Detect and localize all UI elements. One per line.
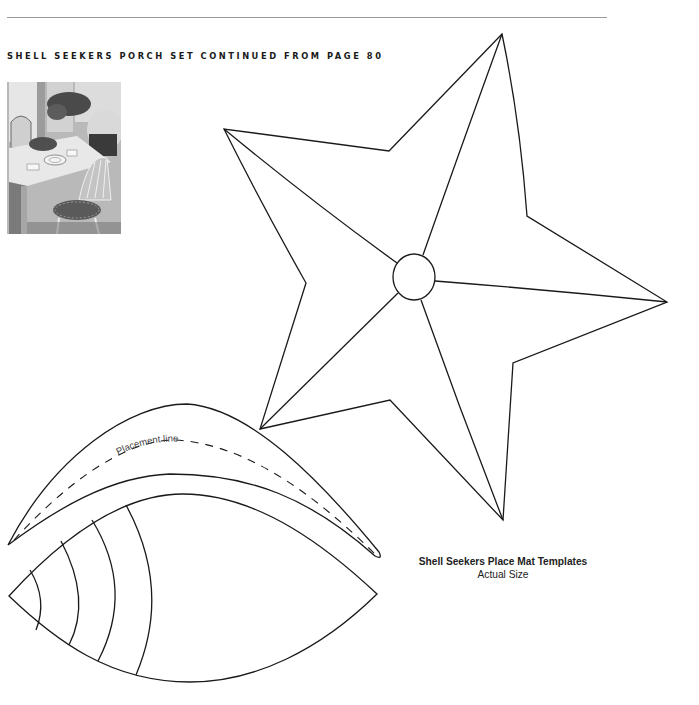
crescent-outline bbox=[8, 404, 380, 557]
caption-title: Shell Seekers Place Mat Templates bbox=[403, 555, 603, 568]
shell-arc-3 bbox=[92, 520, 115, 661]
shell-arc-4 bbox=[126, 505, 152, 675]
star-outline bbox=[224, 34, 667, 520]
star-center-circle bbox=[393, 254, 435, 300]
star-spoke-right bbox=[435, 281, 667, 302]
star-spoke-bottom bbox=[421, 300, 503, 520]
star-spoke-bottom-left bbox=[260, 293, 398, 429]
shell-arc-1 bbox=[30, 570, 41, 630]
shell-template bbox=[9, 494, 377, 682]
star-template bbox=[224, 34, 667, 520]
crescent-template: Placement line bbox=[8, 404, 380, 557]
placement-line-label: Placement line bbox=[114, 432, 178, 456]
template-caption: Shell Seekers Place Mat Templates Actual… bbox=[403, 555, 603, 581]
placement-line bbox=[14, 440, 375, 554]
shell-arc-2 bbox=[61, 541, 79, 645]
shell-outline bbox=[9, 494, 377, 682]
star-spoke-top bbox=[423, 34, 502, 255]
caption-subtitle: Actual Size bbox=[403, 568, 603, 581]
templates-canvas: Placement line bbox=[0, 0, 699, 705]
